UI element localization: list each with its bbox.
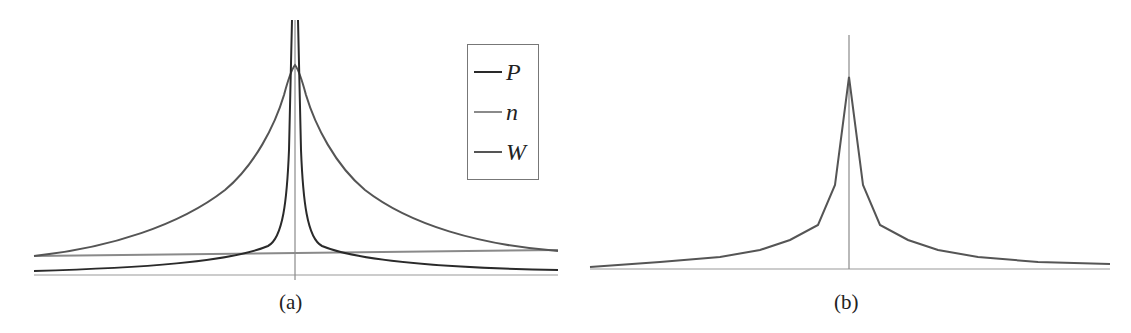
legend-item-W: W	[474, 137, 526, 167]
panel-a-caption: (a)	[279, 290, 302, 315]
panel-b-caption: (b)	[834, 290, 859, 315]
series-n-line	[34, 250, 558, 256]
series-P-line	[34, 20, 292, 271]
plot-area	[0, 0, 1131, 333]
figure: P n W (a) (b)	[0, 0, 1131, 333]
legend-label-W: W	[506, 139, 526, 166]
legend-swatch-P	[474, 71, 502, 73]
panel-b-curve	[590, 77, 1110, 267]
legend-label-P: P	[506, 59, 521, 86]
panel-b	[590, 35, 1110, 269]
legend-swatch-n	[474, 111, 502, 113]
legend: P n W	[467, 44, 539, 180]
legend-item-n: n	[474, 97, 518, 127]
legend-swatch-W	[474, 151, 502, 153]
legend-label-n: n	[506, 99, 518, 126]
legend-item-P: P	[474, 57, 521, 87]
